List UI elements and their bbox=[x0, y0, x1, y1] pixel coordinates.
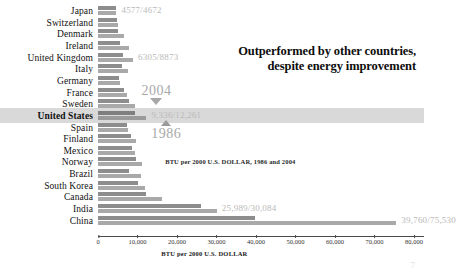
tick-mark bbox=[138, 235, 139, 238]
bar-1986 bbox=[98, 162, 142, 166]
bar-2004 bbox=[98, 123, 127, 127]
category-label-united-kingdom: United Kingdom bbox=[0, 53, 98, 64]
chart-row: Mexico bbox=[0, 146, 424, 157]
x-tick-label: 20,000 bbox=[168, 238, 186, 245]
category-label-finland: Finland bbox=[0, 134, 98, 145]
bar-group bbox=[98, 18, 424, 29]
x-tick-label: 50,000 bbox=[287, 238, 305, 245]
bar-2004 bbox=[98, 181, 138, 185]
category-label-norway: Norway bbox=[0, 157, 98, 168]
category-label-mexico: Mexico bbox=[0, 146, 98, 157]
bar-2004 bbox=[98, 192, 146, 196]
tick-mark bbox=[98, 235, 99, 238]
bar-1986 bbox=[98, 116, 146, 120]
bar-1986 bbox=[98, 69, 128, 73]
bar-1986 bbox=[98, 93, 127, 97]
annotation-2004-label: 2004 bbox=[130, 83, 182, 98]
page-number: 7 bbox=[411, 260, 416, 270]
category-label-ireland: Ireland bbox=[0, 41, 98, 52]
annotation-2004: 2004 bbox=[130, 83, 182, 105]
category-label-canada: Canada bbox=[0, 192, 98, 203]
chart-row: France bbox=[0, 88, 424, 99]
chart-row: Spain bbox=[0, 123, 424, 134]
tick-mark bbox=[375, 235, 376, 238]
x-tick-label: 30,000 bbox=[208, 238, 226, 245]
bar-1986 bbox=[98, 186, 145, 190]
category-label-brazil: Brazil bbox=[0, 169, 98, 180]
bar-group bbox=[98, 29, 424, 40]
annotation-1986: 1986 bbox=[140, 120, 192, 141]
inner-unit-note: BTU per 2000 U.S. DOLLAR, 1986 and 2004 bbox=[165, 158, 295, 165]
category-label-france: France bbox=[0, 88, 98, 99]
chart-row: China39,760/75,530 bbox=[0, 216, 424, 227]
bar-2004 bbox=[98, 6, 116, 10]
chart-row: Japan4577/4672 bbox=[0, 6, 424, 17]
x-tick-label: 10,000 bbox=[129, 238, 147, 245]
bar-2004 bbox=[98, 111, 135, 115]
x-tick-label: 60,000 bbox=[326, 238, 344, 245]
category-label-india: India bbox=[0, 204, 98, 215]
bar-group: 25,989/30,084 bbox=[98, 204, 424, 215]
x-axis-title: BTU per 2000 U.S. DOLLAR bbox=[161, 250, 247, 257]
chart-row: United States9,336/12,261 bbox=[0, 111, 424, 122]
bar-1986 bbox=[98, 128, 128, 132]
bar-1986 bbox=[98, 81, 120, 85]
category-label-china: China bbox=[0, 216, 98, 227]
bar-1986 bbox=[98, 197, 162, 201]
value-label: 39,760/75,530 bbox=[401, 215, 456, 225]
bar-2004 bbox=[98, 18, 117, 22]
category-label-south-korea: South Korea bbox=[0, 181, 98, 192]
tick-mark bbox=[414, 235, 415, 238]
bar-group bbox=[98, 181, 424, 192]
bar-2004 bbox=[98, 99, 129, 103]
bar-1986 bbox=[98, 58, 133, 62]
bar-2004 bbox=[98, 64, 122, 68]
chart-row: United Kingdom6305/8873 bbox=[0, 53, 424, 64]
chart-row: Finland bbox=[0, 134, 424, 145]
bar-1986 bbox=[98, 151, 135, 155]
bar-group bbox=[98, 146, 424, 157]
tick-mark bbox=[256, 235, 257, 238]
category-label-switzerland: Switzerland bbox=[0, 18, 98, 29]
bar-2004 bbox=[98, 41, 120, 45]
category-label-japan: Japan bbox=[0, 6, 98, 17]
bar-2004 bbox=[98, 29, 118, 33]
bar-2004 bbox=[98, 204, 201, 208]
category-label-italy: Italy bbox=[0, 64, 98, 75]
x-tick-label: 70,000 bbox=[366, 238, 384, 245]
category-label-united-states: United States bbox=[0, 111, 98, 122]
chart-row: Switzerland bbox=[0, 18, 424, 29]
bar-1986 bbox=[98, 34, 124, 38]
value-label: 9,336/12,261 bbox=[151, 110, 201, 120]
bar-1986 bbox=[98, 46, 129, 50]
bar-2004 bbox=[98, 134, 131, 138]
tick-mark bbox=[335, 235, 336, 238]
value-label: 6305/8873 bbox=[138, 52, 178, 62]
bar-group bbox=[98, 64, 424, 75]
x-axis-ticks: 010,00020,00030,00040,00050,00060,00070,… bbox=[0, 236, 424, 250]
x-tick-label: 0 bbox=[96, 238, 99, 245]
bar-2004 bbox=[98, 53, 123, 57]
category-label-spain: Spain bbox=[0, 123, 98, 134]
bar-1986 bbox=[98, 11, 116, 15]
category-label-denmark: Denmark bbox=[0, 29, 98, 40]
bar-group bbox=[98, 169, 424, 180]
category-label-germany: Germany bbox=[0, 76, 98, 87]
chart-row: Sweden bbox=[0, 99, 424, 110]
x-tick-label: 80,000 bbox=[405, 238, 423, 245]
bar-1986 bbox=[98, 221, 396, 225]
tick-mark bbox=[177, 235, 178, 238]
category-label-sweden: Sweden bbox=[0, 99, 98, 110]
chart-row: Brazil bbox=[0, 169, 424, 180]
bar-group bbox=[98, 192, 424, 203]
bar-1986 bbox=[98, 174, 141, 178]
value-label: 25,989/30,084 bbox=[222, 203, 277, 213]
tick-mark bbox=[217, 235, 218, 238]
bar-2004 bbox=[98, 76, 119, 80]
bar-2004 bbox=[98, 169, 129, 173]
bar-2004 bbox=[98, 157, 136, 161]
bar-2004 bbox=[98, 146, 132, 150]
triangle-down-icon bbox=[150, 98, 162, 105]
tick-mark bbox=[296, 235, 297, 238]
